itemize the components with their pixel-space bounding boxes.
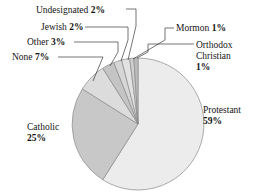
leader-line-jewish [85,27,128,61]
label-undesignated-pct: 2% [91,5,105,15]
pie-slices [72,58,204,190]
label-none: None 7% [12,52,49,63]
leader-line-orthodox-christian [137,44,194,58]
label-protestant-pct: 59% [203,116,241,127]
label-catholic-pct: 25% [27,133,59,144]
label-undesignated: Undesignated 2% [36,5,105,16]
label-orthodox-christian-name: Orthodox Christian [196,40,262,62]
label-catholic-name: Catholic [27,122,59,133]
label-orthodox-christian-pct: 1% [196,62,262,73]
label-other-name: Other [27,37,49,47]
label-undesignated-name: Undesignated [36,5,88,15]
label-protestant: Protestant 59% [203,105,241,127]
leader-line-other [74,42,118,66]
label-mormon-name: Mormon [176,23,209,33]
label-mormon-pct: 1% [212,23,226,33]
leader-line-undesignated [126,9,136,60]
label-mormon: Mormon 1% [176,23,226,34]
pie-chart-figure: Undesignated 2% Jewish 2% Other 3% None … [0,0,262,195]
label-other-pct: 3% [51,37,65,47]
label-none-pct: 7% [35,52,49,62]
label-jewish-name: Jewish [41,22,67,32]
label-catholic: Catholic 25% [27,122,59,144]
label-jewish: Jewish 2% [41,22,84,33]
label-none-name: None [12,52,33,62]
label-orthodox-christian: Orthodox Christian 1% [196,40,262,73]
label-other: Other 3% [27,37,65,48]
leader-line-mormon [133,28,174,59]
label-protestant-name: Protestant [203,105,241,116]
label-jewish-pct: 2% [69,22,83,32]
